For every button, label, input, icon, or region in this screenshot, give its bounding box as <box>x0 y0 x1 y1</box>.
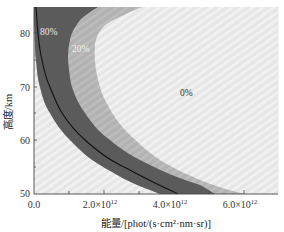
x-axis-title: 能量/[phot/(s·cm²·nm·sr)] <box>101 217 211 230</box>
y-tick-label: 50 <box>20 188 30 199</box>
chart: 80 70 60 50 0.0 2.0×1012 4.0×1012 6.0×10… <box>0 0 284 232</box>
x-tick-mantissa: 4.0×10 <box>153 199 181 210</box>
x-tick-mantissa: 6.0×10 <box>223 199 251 210</box>
x-tick-mantissa: 2.0×10 <box>83 199 111 210</box>
x-tick-exponent: 12 <box>251 198 258 205</box>
y-tick-label: 80 <box>20 28 30 39</box>
plot-area <box>34 7 278 194</box>
x-tick-label: 6.0×1012 <box>223 198 258 210</box>
x-tick-label: 4.0×1012 <box>153 198 188 210</box>
x-tick-label: 2.0×1012 <box>83 198 118 210</box>
x-tick-exponent: 12 <box>181 198 188 205</box>
x-tick-exponent: 12 <box>111 198 118 205</box>
region-label-20pct: 20% <box>72 44 90 54</box>
region-label-0pct: 0% <box>180 88 193 98</box>
region-label-80pct: 80% <box>40 27 58 37</box>
y-axis-title: 高度/km <box>2 94 14 130</box>
x-tick-label: 0.0 <box>28 199 41 210</box>
y-tick-label: 60 <box>20 135 30 146</box>
y-tick-label: 70 <box>20 82 30 93</box>
